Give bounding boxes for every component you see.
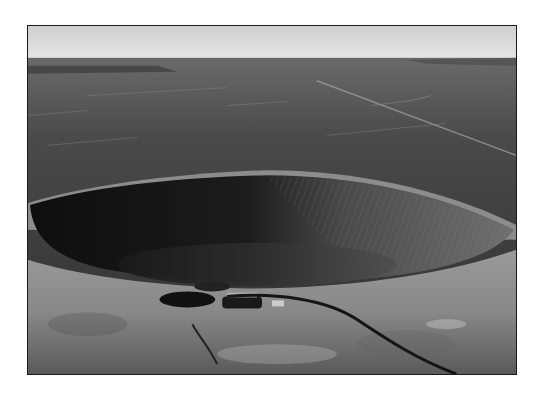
crater-scene xyxy=(28,26,516,374)
sky xyxy=(28,26,516,60)
crater-photograph xyxy=(27,25,517,375)
crater-floor xyxy=(118,243,397,287)
